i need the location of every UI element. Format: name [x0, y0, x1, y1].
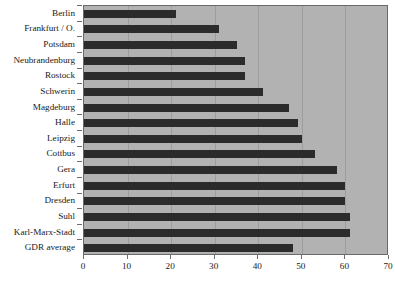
category-label: Dresden [44, 195, 75, 205]
category-label: Berlin [52, 8, 75, 18]
category-label: Gera [57, 164, 75, 174]
bar [84, 213, 350, 221]
value-tick-label: 50 [296, 261, 305, 272]
bar [84, 104, 289, 112]
value-tick [344, 255, 345, 259]
category-label: Leipzig [47, 133, 75, 143]
bar [84, 197, 345, 205]
category-tick [77, 52, 82, 53]
category-label: Erfurt [53, 180, 75, 190]
category-axis: BerlinFrankfurt / O.PotsdamNeubrandenbur… [0, 0, 79, 284]
category-tick [77, 21, 82, 22]
category-tick [77, 208, 82, 209]
value-tick [83, 255, 84, 259]
category-label: Magdeburg [33, 102, 75, 112]
category-label: Halle [55, 117, 75, 127]
value-tick [214, 255, 215, 259]
value-tick-label: 60 [340, 261, 349, 272]
value-tick [388, 255, 389, 259]
category-label: Frankfurt / O. [24, 23, 75, 33]
category-label: Schwerin [40, 86, 75, 96]
value-axis: 010203040506070 [83, 255, 388, 284]
category-tick [77, 177, 82, 178]
bar [84, 119, 298, 127]
value-tick [127, 255, 128, 259]
category-label: Karl-Marx-Stadt [14, 227, 75, 237]
plot-area [83, 5, 388, 255]
value-tick-label: 10 [122, 261, 131, 272]
bar [84, 10, 176, 18]
value-tick-label: 30 [209, 261, 218, 272]
bar [84, 41, 237, 49]
bar [84, 182, 345, 190]
bar [84, 229, 350, 237]
category-tick [77, 99, 82, 100]
category-tick [77, 68, 82, 69]
category-tick [77, 83, 82, 84]
bar [84, 25, 219, 33]
bar [84, 150, 315, 158]
category-tick [77, 146, 82, 147]
category-label: Rostock [45, 70, 75, 80]
bar [84, 57, 245, 65]
category-tick [77, 36, 82, 37]
category-label: Neubrandenburg [13, 55, 75, 65]
category-tick [77, 193, 82, 194]
category-tick [77, 114, 82, 115]
category-label: Potsdam [43, 39, 75, 49]
bar-chart: BerlinFrankfurt / O.PotsdamNeubrandenbur… [0, 0, 395, 284]
category-label: GDR average [25, 242, 75, 252]
value-tick [257, 255, 258, 259]
value-tick-label: 40 [253, 261, 262, 272]
category-tick [77, 224, 82, 225]
bar [84, 88, 263, 96]
value-tick [301, 255, 302, 259]
bar [84, 166, 337, 174]
category-label: Suhl [58, 211, 75, 221]
value-tick [170, 255, 171, 259]
bar [84, 244, 293, 252]
value-tick-label: 0 [81, 261, 86, 272]
category-tick [77, 161, 82, 162]
bar [84, 135, 302, 143]
category-tick [77, 239, 82, 240]
value-tick-label: 70 [383, 261, 392, 272]
bar [84, 72, 245, 80]
category-tick [77, 130, 82, 131]
category-tick [77, 5, 82, 6]
value-tick-label: 20 [166, 261, 175, 272]
category-label: Cottbus [46, 148, 75, 158]
